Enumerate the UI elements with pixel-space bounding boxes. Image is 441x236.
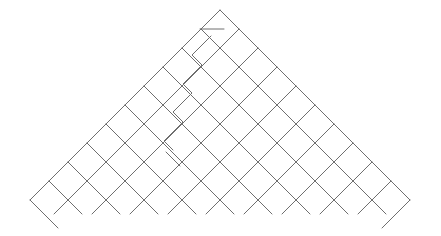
lattice-triangle-figure: Diagonal lattice triangle line drawing <box>0 0 441 236</box>
diagram-canvas: Diagonal lattice triangle line drawing <box>0 0 441 236</box>
